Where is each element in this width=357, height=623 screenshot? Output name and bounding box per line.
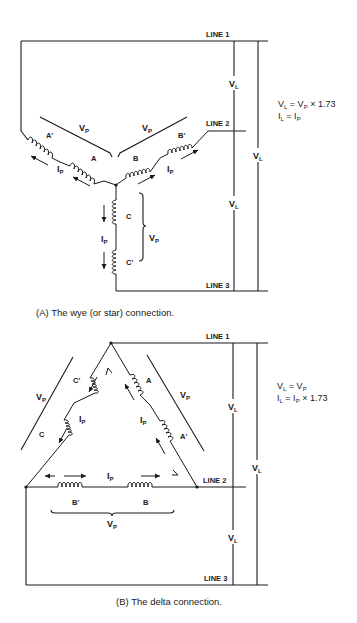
coil-label-b-prime: B': [72, 498, 79, 507]
vp-label: VP: [142, 123, 152, 134]
coil-label-c: C: [126, 212, 132, 221]
coil-c: [112, 185, 116, 240]
ip-label: IP: [57, 164, 64, 175]
vp-label: VP: [36, 392, 46, 403]
coil-a-prime: [28, 137, 70, 166]
ip-label: IP: [140, 415, 147, 426]
wire: [21, 131, 28, 140]
coil-c: [26, 403, 74, 487]
coil-label-c-prime: C': [126, 258, 133, 267]
current-arrow: [59, 428, 67, 443]
equation-current: IL = IP × 1.73: [277, 393, 327, 404]
line-3-label: LINE 3: [204, 574, 227, 583]
vp-label: VP: [180, 390, 190, 401]
coil-label-c-prime: C': [73, 376, 80, 385]
coil-c-prime: [74, 343, 111, 403]
coil-label-b: B: [143, 498, 149, 507]
vp-label: VP: [107, 519, 117, 530]
ip-label: IP: [101, 234, 108, 245]
current-arrow: [138, 175, 155, 184]
current-arrow: [172, 470, 178, 475]
wye-diagram: LINE 1 LINE 2 LINE 3 VL VL VL VP VP: [21, 30, 335, 318]
coil-label-a-prime: A': [46, 131, 53, 140]
ip-label: IP: [79, 414, 86, 425]
coil-label-a: A: [91, 154, 97, 163]
caption-delta: (B) The delta connection.: [116, 596, 222, 607]
current-arrow: [73, 177, 90, 186]
equation-voltage: VL = VP: [277, 381, 307, 392]
coil-b-prime: [160, 131, 246, 158]
vp-label: VP: [149, 233, 159, 244]
ip-label: IP: [107, 471, 114, 482]
coil-label-a: A: [146, 376, 152, 385]
line-1-label: LINE 1: [206, 332, 229, 341]
vp-bracket-c: [139, 193, 146, 261]
coil-b-prime: [26, 483, 94, 488]
coil-label-b: B: [133, 154, 139, 163]
line-2-label: LINE 2: [203, 476, 226, 485]
equation-voltage: VL = VP × 1.73: [278, 99, 335, 110]
coil-c-prime: [112, 240, 116, 291]
coil-label-c: C: [39, 430, 45, 439]
equation-current: IL = IP: [278, 111, 301, 122]
line-1-label: LINE 1: [206, 30, 229, 39]
current-arrow: [156, 438, 165, 454]
coil-label-a-prime: A': [180, 432, 187, 441]
caption-wye: (A) The wye (or star) connection.: [36, 307, 174, 318]
delta-diagram: LINE 1 LINE 2 LINE 3 VL VL VL VP VP VP: [21, 332, 327, 607]
current-arrow: [181, 150, 198, 159]
ip-label: IP: [167, 164, 174, 175]
current-arrow: [31, 156, 48, 165]
current-arrow: [106, 368, 112, 375]
coil-label-b-prime: B': [178, 131, 185, 140]
vp-bracket-right: [147, 355, 204, 451]
vp-bracket-left: [21, 357, 73, 450]
coil-a: [111, 343, 150, 405]
three-phase-connections-diagram: LINE 1 LINE 2 LINE 3 VL VL VL VP VP: [0, 0, 357, 623]
vp-bracket-bottom: [51, 510, 174, 516]
coil-a: [70, 163, 116, 185]
line-3-label: LINE 3: [206, 281, 229, 290]
vp-bracket-right: [118, 117, 187, 157]
current-arrow: [125, 384, 134, 400]
vp-label: VP: [79, 123, 89, 134]
line-2-label: LINE 2: [206, 119, 229, 128]
